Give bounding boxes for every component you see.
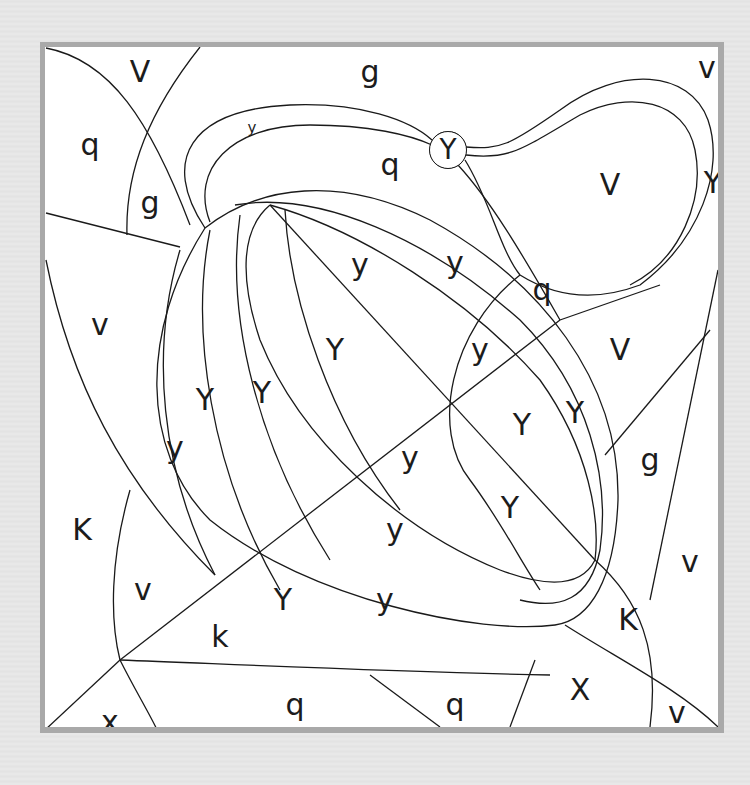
region-letter-r35[interactable]: q xyxy=(285,690,304,720)
region-letter-r30[interactable]: Y xyxy=(274,585,292,615)
region-letter-r37[interactable]: x xyxy=(101,707,119,727)
region-letter-r16[interactable]: y xyxy=(471,335,489,365)
region-letter-r4[interactable]: q xyxy=(80,130,99,160)
coloring-page: VgvqyYqVYgyyqvYyVYYYYyygYKyvvYyKkXqqxv xyxy=(45,47,718,727)
region-letter-r31[interactable]: y xyxy=(376,585,394,615)
region-letter-r11[interactable]: y xyxy=(351,250,369,280)
region-letter-r7[interactable]: q xyxy=(380,150,399,180)
region-letter-r29[interactable]: v xyxy=(134,575,152,605)
region-line xyxy=(113,490,165,727)
cord-line xyxy=(465,79,713,295)
region-letter-r14[interactable]: v xyxy=(91,310,109,340)
region-letter-r28[interactable]: v xyxy=(681,547,699,577)
cord-line xyxy=(466,102,697,285)
region-line xyxy=(510,660,535,727)
pot-rim xyxy=(235,202,602,603)
region-line xyxy=(595,560,653,727)
region-letter-r5[interactable]: y xyxy=(248,121,257,136)
region-letter-r17[interactable]: V xyxy=(610,335,631,365)
region-letter-r13[interactable]: q xyxy=(532,275,551,305)
region-line xyxy=(370,675,440,727)
region-letter-r38[interactable]: v xyxy=(668,698,686,727)
pot-inner xyxy=(246,205,596,582)
region-letter-r33[interactable]: k xyxy=(211,622,228,652)
region-line xyxy=(46,48,190,225)
region-letter-r2[interactable]: g xyxy=(360,57,379,87)
region-letter-r19[interactable]: Y xyxy=(253,378,271,408)
region-letter-r21[interactable]: Y xyxy=(513,410,531,440)
pot-rib xyxy=(203,230,280,590)
region-letter-r36[interactable]: q xyxy=(445,690,464,720)
region-letter-r25[interactable]: Y xyxy=(501,493,519,523)
region-letter-r34[interactable]: X xyxy=(570,675,591,705)
region-letter-r22[interactable]: y xyxy=(166,433,184,463)
region-line xyxy=(120,660,550,675)
region-letter-r3[interactable]: v xyxy=(698,53,716,83)
region-letter-r26[interactable]: K xyxy=(72,515,92,545)
region-letter-r27[interactable]: y xyxy=(386,515,404,545)
region-letter-r24[interactable]: g xyxy=(640,445,659,475)
region-letter-r12[interactable]: y xyxy=(446,248,464,278)
region-line xyxy=(46,213,180,247)
region-letter-r15[interactable]: Y xyxy=(326,335,344,365)
region-letter-r10[interactable]: g xyxy=(140,188,159,218)
region-letter-r23[interactable]: y xyxy=(401,443,419,473)
region-letter-r18[interactable]: Y xyxy=(196,385,214,415)
region-line xyxy=(560,285,660,320)
region-letter-r6[interactable]: Y xyxy=(429,131,467,169)
region-letter-r9[interactable]: Y xyxy=(704,168,718,198)
region-letter-r20[interactable]: Y xyxy=(566,398,584,428)
region-letter-r32[interactable]: K xyxy=(618,605,638,635)
region-letter-r1[interactable]: V xyxy=(130,57,151,87)
region-letter-r8[interactable]: V xyxy=(600,170,621,200)
